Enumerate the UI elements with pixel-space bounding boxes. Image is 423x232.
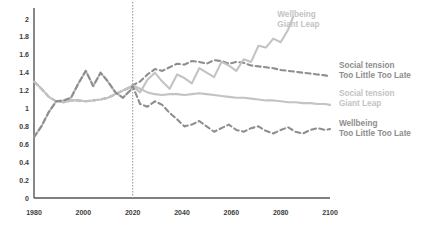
x-tick-label: 2060	[224, 209, 240, 216]
y-tick-label: 0.6	[19, 141, 29, 148]
legend-label-3-line1: Wellbeing	[339, 119, 378, 128]
chart-canvas: 00.20.40.60.811.21.41.61.82 198020002020…	[0, 0, 423, 232]
chart-legend: Social tensionToo Little Too LateSocial …	[277, 10, 411, 138]
y-tick-label: 1.4	[19, 69, 29, 76]
y-tick-label: 0.2	[19, 177, 29, 184]
legend-label-2-line1: Wellbeing	[277, 10, 316, 19]
y-axis: 00.20.40.60.811.21.41.61.82	[19, 8, 34, 202]
y-tick-label: 1.6	[19, 51, 29, 58]
legend-label-0-line1: Social tension	[339, 61, 395, 70]
y-tick-label: 2	[25, 16, 29, 23]
x-tick-label: 2080	[273, 209, 289, 216]
legend-label-1-line1: Social tension	[339, 89, 395, 98]
legend-label-0-line2: Too Little Too Late	[339, 71, 411, 80]
series-line-0	[34, 60, 330, 102]
legend-label-2-line2: Giant Leap	[277, 20, 319, 29]
y-tick-label: 1.8	[19, 33, 29, 40]
legend-label-1-line2: Giant Leap	[339, 99, 381, 108]
chart-series	[34, 17, 330, 137]
y-tick-label: 0	[25, 195, 29, 202]
x-axis: 1980200020202040206020802100	[26, 198, 338, 216]
x-tick-label: 2040	[174, 209, 190, 216]
legend-label-3-line2: Too Little Too Late	[339, 129, 411, 138]
x-tick-label: 1980	[26, 209, 42, 216]
x-tick-label: 2000	[76, 209, 92, 216]
y-tick-label: 1	[25, 105, 29, 112]
y-tick-label: 1.2	[19, 87, 29, 94]
y-tick-label: 0.4	[19, 159, 29, 166]
y-tick-label: 0.8	[19, 123, 29, 130]
series-line-3	[34, 71, 330, 137]
series-line-2	[34, 17, 293, 137]
wellbeing-social-tension-chart: 00.20.40.60.811.21.41.61.82 198020002020…	[0, 0, 423, 232]
x-tick-label: 2100	[322, 209, 338, 216]
x-tick-label: 2020	[125, 209, 141, 216]
